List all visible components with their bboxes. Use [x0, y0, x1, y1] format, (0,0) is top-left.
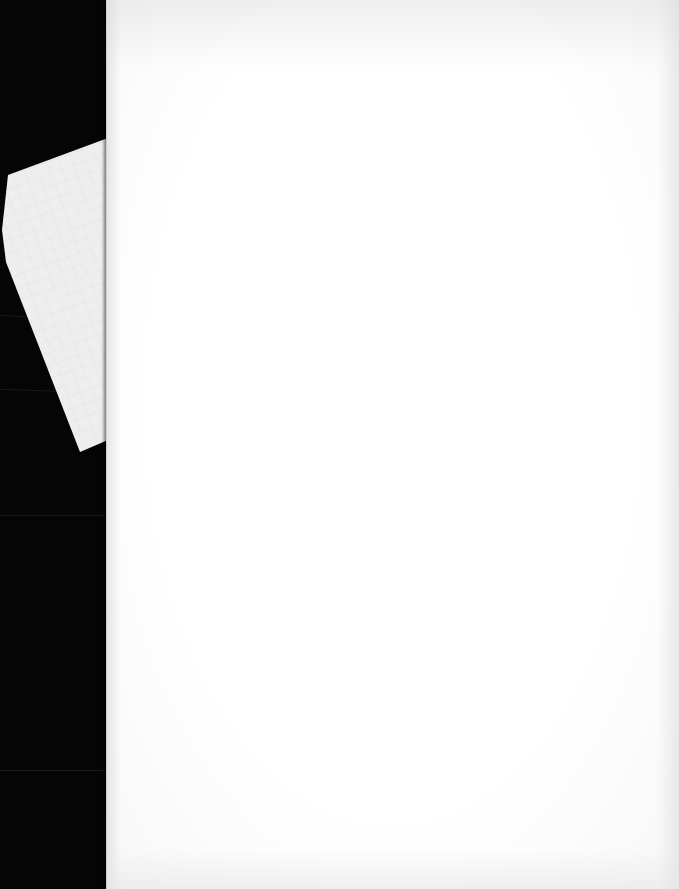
sheet-shadow-bottom — [107, 849, 679, 889]
grid-lines — [0, 0, 120, 460]
sheet-shadow-right — [657, 0, 679, 889]
background-streak — [0, 770, 105, 771]
background-streak — [0, 515, 105, 516]
blank-paper-sheet — [106, 0, 679, 889]
grid-paper-fragment — [0, 0, 120, 460]
sheet-shadow-top — [107, 0, 679, 70]
sheet-shadow-left — [107, 0, 121, 889]
